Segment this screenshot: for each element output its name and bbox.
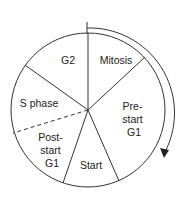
arrowhead-icon (160, 148, 169, 158)
cell-cycle-diagram: Mitosis Pre- start G1 Start Post- start … (0, 0, 186, 200)
label-g2: G2 (61, 54, 75, 66)
label-s-phase: S phase (20, 97, 59, 109)
label-mitosis: Mitosis (100, 54, 133, 66)
label-start: Start (80, 159, 102, 171)
